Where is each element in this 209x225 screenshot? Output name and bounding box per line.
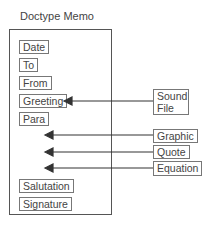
arrowhead-icon bbox=[45, 148, 53, 156]
arrowhead-icon bbox=[64, 97, 72, 105]
arrowhead-icon bbox=[45, 164, 53, 172]
arrowhead-icon bbox=[45, 131, 53, 139]
arrows-layer bbox=[0, 0, 209, 225]
